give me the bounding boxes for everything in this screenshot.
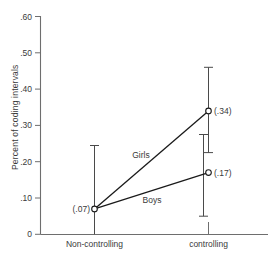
y-tick-label-0: 0: [27, 229, 32, 239]
y-tick-label-20: .20: [20, 157, 32, 167]
error-bar-left-shared: [90, 146, 99, 235]
y-axis-title: Percent of coding intervals: [10, 64, 20, 170]
data-label-07: (.07): [73, 204, 91, 214]
y-tick-label-30: .30: [20, 120, 32, 130]
y-tick-label-10: .10: [20, 193, 32, 203]
data-label-17: (.17): [214, 168, 232, 178]
series-label-girls: Girls: [132, 150, 149, 160]
y-tick-label-50: .50: [20, 48, 32, 58]
data-point-boys-controlling: [206, 170, 212, 176]
x-category-label-controlling: controlling: [189, 239, 228, 249]
y-tick-label-40: .40: [20, 84, 32, 94]
data-point-girls-controlling: [206, 108, 212, 114]
chart-figure: .60 .50 .40 .30 .20 .10 0 Percent of cod…: [0, 0, 273, 261]
data-label-34: (.34): [214, 106, 232, 116]
x-category-label-non-controlling: Non-controlling: [66, 239, 123, 249]
y-tick-label-60: .60: [20, 12, 32, 22]
data-point-shared-non-controlling: [92, 206, 98, 212]
line-chart-plot: .60 .50 .40 .30 .20 .10 0 Percent of cod…: [0, 0, 273, 261]
series-label-boys: Boys: [143, 195, 162, 205]
